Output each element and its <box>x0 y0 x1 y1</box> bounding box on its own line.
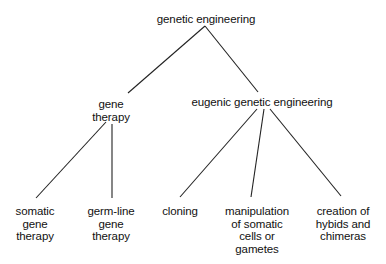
node-label-line: gene <box>92 98 130 111</box>
node-label-line: gene <box>87 218 134 231</box>
edge-root-gene-therapy <box>128 26 205 93</box>
node-label-line: of somatic <box>225 218 289 231</box>
node-label-line: hybids and <box>316 218 371 231</box>
node-label-line: chimeras <box>316 230 371 243</box>
node-label-line: therapy <box>92 111 130 124</box>
node-label-line: manipulation <box>225 205 289 218</box>
node-label-line: therapy <box>16 230 55 243</box>
node-label-line: creation of <box>316 205 371 218</box>
node-label-line: therapy <box>87 230 134 243</box>
node-germ-line-gene-therapy: germ-line gene therapy <box>87 205 134 243</box>
node-label-line: gametes <box>225 243 289 256</box>
edge-eugenic-cloning <box>180 109 257 197</box>
node-label: cloning <box>162 205 198 218</box>
node-label-line: somatic <box>16 205 55 218</box>
node-eugenic-genetic-engineering: eugenic genetic engineering <box>191 96 332 109</box>
node-label-line: cells or <box>225 230 289 243</box>
node-label-line: gene <box>16 218 55 231</box>
edge-eugenic-creation <box>270 109 341 196</box>
edge-gene-therapy-somatic <box>36 122 106 198</box>
node-gene-therapy: gene therapy <box>92 98 130 123</box>
node-genetic-engineering: genetic engineering <box>157 13 255 26</box>
node-label: eugenic genetic engineering <box>191 96 332 109</box>
node-somatic-gene-therapy: somatic gene therapy <box>16 205 55 243</box>
node-creation-of-hybrids: creation of hybids and chimeras <box>316 205 371 243</box>
edge-eugenic-manipulation <box>251 109 264 197</box>
node-manipulation: manipulation of somatic cells or gametes <box>225 205 289 255</box>
node-cloning: cloning <box>162 205 198 218</box>
node-label-line: germ-line <box>87 205 134 218</box>
edge-root-eugenic <box>205 26 258 92</box>
node-label: genetic engineering <box>157 13 255 26</box>
